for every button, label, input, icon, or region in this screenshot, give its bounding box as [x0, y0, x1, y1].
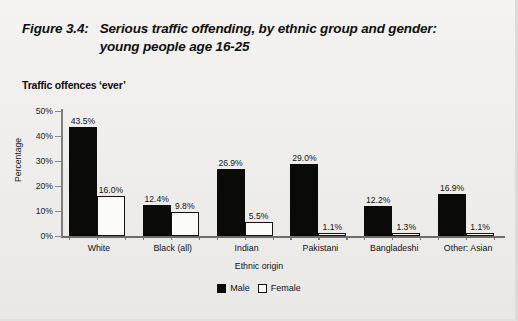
- bar-value-label: 12.2%: [366, 195, 390, 205]
- bar-male-pakistani: [290, 164, 318, 237]
- bar-value-label: 43.5%: [71, 116, 95, 126]
- x-axis-tick: [199, 236, 200, 240]
- bar-value-label: 16.0%: [99, 185, 123, 195]
- x-axis-tick: [97, 236, 98, 240]
- chart-subtitle: Traffic offences ‘ever’: [22, 79, 126, 91]
- legend-label: Female: [271, 283, 301, 293]
- y-axis-tick: [55, 161, 62, 162]
- legend-item-female[interactable]: Female: [258, 283, 301, 293]
- y-axis-tick: [55, 211, 62, 212]
- x-axis-tick: [318, 236, 319, 240]
- bar-value-label: 16.9%: [440, 183, 464, 193]
- x-axis-tick: [143, 236, 144, 240]
- bar-value-label: 9.8%: [175, 201, 195, 211]
- figure-number: Figure 3.4:: [22, 20, 89, 38]
- figure-title-text: Serious traffic offending, by ethnic gro…: [100, 20, 492, 55]
- plot-area: [62, 111, 505, 236]
- bar-value-label: 26.9%: [218, 158, 242, 168]
- y-axis-tick-label: 0%: [7, 231, 53, 241]
- x-axis-tick: [290, 236, 291, 240]
- x-axis-tick: [392, 236, 393, 240]
- x-axis-tick: [69, 236, 70, 240]
- y-axis-tick-label: 10%: [7, 206, 53, 216]
- x-axis-category-label: Pakistani: [303, 243, 339, 253]
- x-axis-category-label: Black (all): [153, 243, 192, 253]
- legend-item-male[interactable]: Male: [217, 283, 250, 293]
- y-axis-tick-label: 40%: [7, 131, 53, 141]
- x-axis-tick: [466, 236, 467, 240]
- bar-female-indian: [245, 222, 273, 236]
- bar-value-label: 1.1%: [323, 222, 343, 232]
- x-axis-tick: [494, 236, 495, 240]
- bar-female-white: [97, 196, 125, 236]
- x-axis-category-label: White: [88, 243, 111, 253]
- bar-male-black-all: [143, 205, 171, 236]
- x-axis-title: Ethnic origin: [0, 261, 518, 271]
- bar-male-other-asian: [438, 194, 466, 236]
- figure-title-line2: young people age 16-25: [100, 38, 492, 56]
- bar-value-label: 12.4%: [145, 194, 169, 204]
- y-axis-tick-label: 30%: [7, 156, 53, 166]
- chart-legend: MaleFemale: [0, 283, 518, 293]
- x-axis-category-label: Indian: [235, 243, 259, 253]
- x-axis-tick: [420, 236, 421, 240]
- x-axis-tick: [346, 236, 347, 240]
- bar-value-label: 1.3%: [396, 222, 416, 232]
- x-axis-tick: [171, 236, 172, 240]
- figure-title: Figure 3.4: Serious traffic offending, b…: [22, 20, 492, 55]
- bar-male-bangladeshi: [364, 206, 392, 237]
- y-axis-tick: [55, 136, 62, 137]
- legend-swatch-male: [217, 284, 226, 293]
- y-axis-tick: [55, 111, 62, 112]
- x-axis-tick: [217, 236, 218, 240]
- bar-male-white: [69, 127, 97, 236]
- bar-female-pakistani: [318, 233, 346, 237]
- x-axis-tick: [245, 236, 246, 240]
- legend-label: Male: [230, 283, 250, 293]
- bar-female-bangladeshi: [392, 233, 420, 237]
- x-axis-category-label: Other: Asian: [444, 243, 492, 253]
- bar-value-label: 29.0%: [292, 153, 316, 163]
- x-axis-tick: [438, 236, 439, 240]
- bar-value-label: 5.5%: [249, 211, 269, 221]
- legend-swatch-female: [258, 284, 267, 293]
- y-axis-tick-label: 20%: [7, 181, 53, 191]
- figure-title-line1: Serious traffic offending, by ethnic gro…: [100, 21, 437, 36]
- bar-value-label: 1.1%: [470, 222, 490, 232]
- bar-chart: Percentage 0%10%20%30%40%50% Ethnic orig…: [0, 100, 518, 300]
- x-axis-tick: [273, 236, 274, 240]
- y-axis-tick-label: 50%: [7, 106, 53, 116]
- bar-female-other-asian: [466, 233, 494, 237]
- figure-page: Figure 3.4: Serious traffic offending, b…: [0, 0, 518, 321]
- y-axis-tick: [55, 186, 62, 187]
- x-axis-category-label: Bangladeshi: [370, 243, 418, 253]
- y-axis-tick: [55, 236, 62, 237]
- x-axis-tick: [125, 236, 126, 240]
- bar-female-black-all: [171, 212, 199, 237]
- x-axis-tick: [364, 236, 365, 240]
- bar-male-indian: [217, 169, 245, 236]
